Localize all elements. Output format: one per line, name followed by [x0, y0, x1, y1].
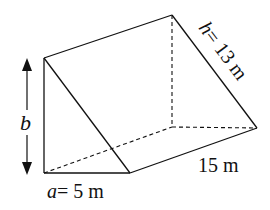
arrow-down-icon: [22, 162, 32, 175]
prism-svg: b h= 13 m 15 m a= 5 m: [0, 0, 270, 210]
prism-diagram: b h= 13 m 15 m a= 5 m: [0, 0, 270, 210]
arrow-up-icon: [22, 58, 32, 71]
label-h-group: h= 13 m: [195, 17, 253, 84]
svg-text:h= 13 m: h= 13 m: [195, 17, 253, 84]
label-a-eq: = 5 m: [57, 180, 104, 202]
bottom-left-hidden-edge: [44, 127, 172, 173]
top-edge: [44, 15, 172, 58]
front-hypotenuse-edge: [44, 58, 130, 173]
label-a-var: a: [47, 180, 57, 202]
back-base-hidden-edge: [172, 127, 257, 128]
label-length: 15 m: [198, 154, 239, 176]
label-a-group: a= 5 m: [47, 180, 104, 202]
label-b: b: [20, 110, 31, 135]
label-h-eq: = 13 m: [201, 25, 253, 84]
